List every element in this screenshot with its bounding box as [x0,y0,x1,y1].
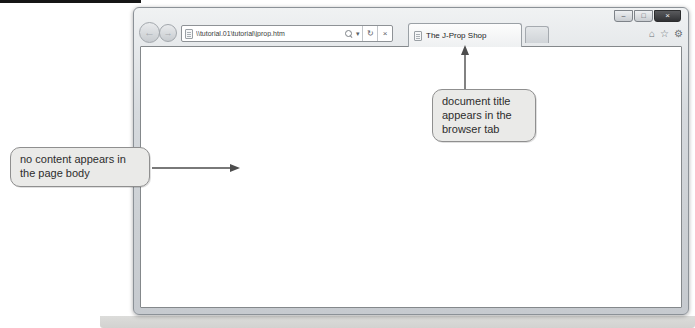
address-bar[interactable]: \\tutorial.01\tutorial\jprop.htm ▾ ↻ × [181,25,393,42]
tab-favicon-icon [414,31,422,41]
callout-page-body-arrow [152,161,240,175]
search-dropdown-icon[interactable]: ▾ [354,26,362,41]
minimize-button[interactable]: – [614,10,633,22]
refresh-button[interactable]: ↻ [362,26,377,41]
window-drop-shadow [100,316,695,328]
window-controls: – □ × [614,10,681,22]
callout-page-body: no content appears in the page body [10,147,150,187]
maximize-button[interactable]: □ [634,10,653,22]
figure-top-rule [0,0,141,3]
search-icon[interactable] [345,30,353,38]
tools-gear-icon[interactable]: ⚙ [674,27,683,40]
page-body [140,46,682,308]
back-button[interactable]: ← [139,22,160,43]
forward-button[interactable]: → [159,24,177,42]
favorites-star-icon[interactable]: ☆ [660,27,669,40]
browser-toolbar: ⌂ ☆ ⚙ [649,27,683,40]
page-favicon-icon [185,29,193,39]
address-url[interactable]: \\tutorial.01\tutorial\jprop.htm [196,30,345,37]
home-icon[interactable]: ⌂ [649,27,655,40]
callout-browser-tab: document title appears in the browser ta… [432,89,536,142]
callout-browser-tab-arrow [457,45,473,89]
address-bar-tools: ▾ ↻ × [345,26,392,41]
close-button[interactable]: × [654,10,681,22]
figure-canvas: – □ × ← → \\tutorial.01\tutorial\jprop.h… [0,0,695,328]
new-tab-button[interactable] [525,26,549,43]
tab-title: The J-Prop Shop [426,31,486,40]
stop-button[interactable]: × [377,26,392,41]
browser-tab[interactable]: The J-Prop Shop [408,23,522,47]
